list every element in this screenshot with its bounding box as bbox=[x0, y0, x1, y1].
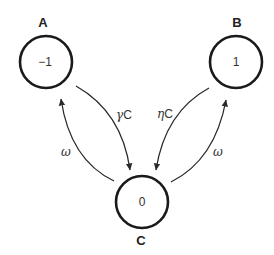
edge-label-omega-right: ω bbox=[213, 145, 223, 159]
node-c-value: 0 bbox=[139, 195, 146, 209]
node-c-label: C bbox=[136, 233, 146, 248]
edge-label-omega-left: ω bbox=[61, 145, 71, 159]
node-c: 0 C bbox=[116, 176, 168, 248]
node-b-value: 1 bbox=[233, 55, 240, 69]
node-b: B 1 bbox=[210, 15, 262, 88]
node-b-label: B bbox=[232, 15, 241, 30]
node-a: A −1 bbox=[20, 15, 72, 88]
state-diagram: γC ω ηC ω A −1 B 1 0 C bbox=[0, 0, 274, 255]
node-a-label: A bbox=[38, 15, 48, 30]
edge-label-gamma-c: γC bbox=[116, 108, 132, 122]
node-a-value: −1 bbox=[38, 55, 52, 69]
edge-label-eta-c: ηC bbox=[157, 107, 173, 121]
